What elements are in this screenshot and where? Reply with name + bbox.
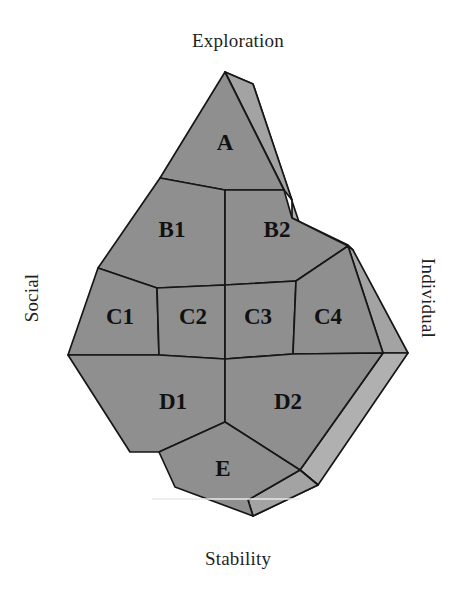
region-label-C2: C2 — [179, 304, 207, 329]
region-label-C1: C1 — [106, 304, 134, 329]
region-label-C3: C3 — [244, 304, 272, 329]
region-label-E: E — [215, 456, 230, 481]
region-label-A: A — [217, 130, 234, 155]
region-label-B2: B2 — [264, 217, 291, 242]
diagram-stage: A B1 B2 C1 C2 C3 C4 D1 D2 E Exploration … — [0, 0, 476, 596]
gem-diagram-svg: A B1 B2 C1 C2 C3 C4 D1 D2 E — [0, 0, 476, 596]
region-label-B1: B1 — [159, 217, 186, 242]
region-label-D1: D1 — [159, 389, 187, 414]
axis-label-social: Social — [21, 274, 43, 323]
region-label-C4: C4 — [314, 304, 343, 329]
axis-label-stability: Stability — [0, 548, 476, 570]
region-label-D2: D2 — [274, 389, 302, 414]
axis-label-individual: Individual — [417, 258, 439, 338]
axis-label-exploration: Exploration — [0, 30, 476, 52]
